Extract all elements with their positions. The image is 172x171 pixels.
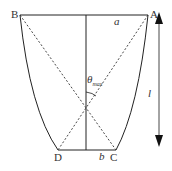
diagram-figure: [0, 0, 172, 171]
height-label-l: l: [148, 88, 151, 99]
diagram-canvas: B A D C a b l θmax: [0, 0, 172, 171]
angle-label-theta: θmax: [87, 74, 102, 87]
length-label-b: b: [99, 151, 105, 162]
theta-subscript: max: [92, 81, 102, 87]
point-label-c: C: [110, 152, 117, 163]
right-curved-side: [116, 15, 148, 150]
arrow-down-head: [155, 135, 163, 147]
point-label-d: D: [54, 152, 62, 163]
left-curved-side: [20, 15, 58, 150]
diagonal-ad: [58, 15, 148, 150]
point-label-a: A: [150, 9, 158, 20]
point-label-b: B: [11, 9, 18, 20]
length-label-a: a: [114, 16, 120, 27]
